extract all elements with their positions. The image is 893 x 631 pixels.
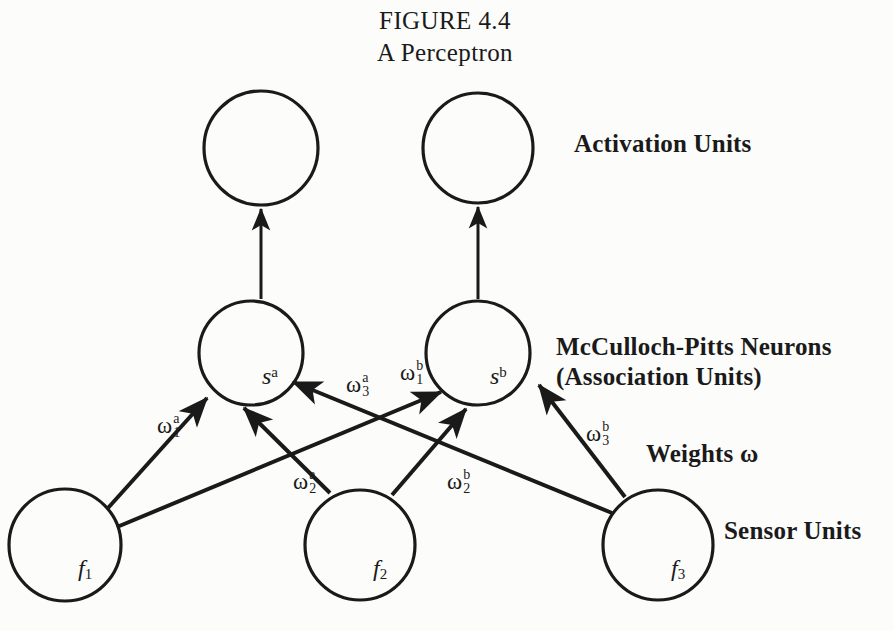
w1b-subscript: 1: [416, 373, 423, 387]
w2b-subscript: 2: [463, 482, 470, 496]
w1b-superscript: b: [416, 359, 423, 373]
association-unit-sa-label: sa: [238, 339, 278, 415]
weights-label: Weights ω: [646, 441, 758, 467]
activation-unit-a: [204, 91, 318, 205]
sb-superscript: b: [499, 364, 507, 380]
figure-page: FIGURE 4.4 A Perceptron: [0, 0, 893, 631]
f1-subscript: 1: [85, 566, 93, 582]
w3b-subscript: 3: [602, 434, 609, 448]
sa-superscript: a: [271, 364, 278, 380]
weight-label-w3b: ωb3: [563, 398, 609, 474]
w3a-subscript: 3: [362, 385, 369, 399]
w1a-indices: a1: [173, 412, 180, 440]
weight-label-w2a: ωa2: [270, 446, 316, 522]
w2b-omega: ω: [447, 469, 462, 494]
w1a-omega: ω: [157, 413, 172, 438]
w2a-omega: ω: [293, 469, 308, 494]
sb-base: s: [490, 363, 499, 389]
sa-base: s: [262, 363, 271, 389]
w3b-superscript: b: [602, 420, 609, 434]
w3a-omega: ω: [346, 372, 361, 397]
w3b-indices: b3: [602, 420, 609, 448]
weight-label-w1b: ωb1: [377, 337, 423, 413]
w3b-omega: ω: [586, 421, 601, 446]
w1a-superscript: a: [173, 412, 180, 426]
w3a-indices: a3: [362, 371, 369, 399]
w1a-subscript: 1: [173, 426, 180, 440]
activation-unit-b: [423, 93, 533, 203]
w2a-indices: a2: [309, 468, 316, 496]
association-units-label: (Association Units): [556, 364, 762, 390]
w2b-superscript: b: [463, 468, 470, 482]
weight-label-w2b: ωb2: [424, 446, 470, 522]
sensor-unit-f1-label: f1: [54, 531, 92, 608]
w2b-indices: b2: [463, 468, 470, 496]
sensor-unit-f2-label: f2: [349, 531, 387, 608]
f2-subscript: 2: [380, 566, 388, 582]
w3a-superscript: a: [362, 371, 369, 385]
activation-units-label: Activation Units: [574, 131, 752, 157]
mcculloch-pitts-neurons-label: McCulloch-Pitts Neurons: [556, 334, 832, 360]
w2a-subscript: 2: [309, 482, 316, 496]
weight-label-w1a: ωa1: [134, 390, 180, 466]
f2-base: f: [373, 555, 380, 581]
f3-subscript: 3: [678, 566, 686, 582]
association-unit-sb-label: sb: [466, 339, 507, 415]
sensor-units-label: Sensor Units: [724, 518, 861, 544]
weight-label-w3a: ωa3: [323, 349, 369, 425]
f1-base: f: [78, 555, 85, 581]
w2a-superscript: a: [309, 468, 316, 482]
f3-base: f: [671, 555, 678, 581]
w1b-indices: b1: [416, 359, 423, 387]
sensor-unit-f3-label: f3: [647, 531, 685, 608]
w1b-omega: ω: [400, 360, 415, 385]
